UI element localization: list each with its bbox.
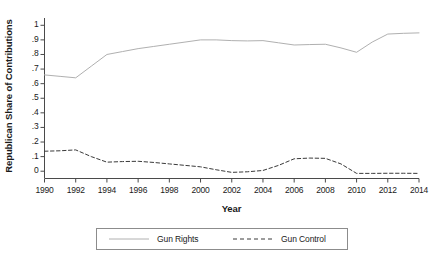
y-tick-label: .1	[17, 152, 39, 161]
x-tick-label: 2014	[402, 185, 431, 195]
x-tick-marks	[45, 179, 420, 183]
legend-entry-gun-control: Gun Control	[233, 229, 326, 249]
legend-label-gun-control: Gun Control	[281, 234, 326, 244]
y-tick-marks	[41, 25, 45, 171]
series-line-gun-rights	[45, 33, 420, 78]
y-tick-label: .7	[17, 64, 39, 73]
y-tick-label: .8	[17, 49, 39, 58]
x-tick-label: 2012	[371, 185, 405, 195]
x-tick-label: 2002	[215, 185, 249, 195]
x-tick-label: 1998	[152, 185, 186, 195]
x-tick-label: 2006	[277, 185, 311, 195]
x-axis-title: Year	[44, 203, 419, 214]
data-series-group	[45, 33, 420, 174]
legend-line-solid-icon	[109, 234, 149, 244]
x-tick-label: 1994	[90, 185, 124, 195]
legend-label-gun-rights: Gun Rights	[157, 234, 199, 244]
plot-area	[0, 0, 431, 260]
y-tick-label: .3	[17, 122, 39, 131]
y-tick-label: .4	[17, 108, 39, 117]
y-tick-label: 1	[17, 20, 39, 29]
x-tick-label: 1992	[59, 185, 93, 195]
x-tick-label: 1996	[121, 185, 155, 195]
x-tick-label: 2010	[340, 185, 374, 195]
chart-figure: Republican Share of Contributions 0.1.2.…	[0, 0, 431, 260]
x-tick-label: 1990	[28, 185, 62, 195]
x-tick-label: 2000	[184, 185, 218, 195]
legend-line-dashed-icon	[233, 234, 273, 244]
y-tick-label: .5	[17, 93, 39, 102]
y-tick-label: 0	[17, 166, 39, 175]
legend-entry-gun-rights: Gun Rights	[109, 229, 199, 249]
x-tick-label: 2008	[308, 185, 342, 195]
y-tick-label: .6	[17, 79, 39, 88]
x-tick-label: 2004	[246, 185, 280, 195]
axes-group	[45, 18, 420, 179]
y-tick-label: .9	[17, 35, 39, 44]
y-tick-label: .2	[17, 137, 39, 146]
series-line-gun-control	[45, 150, 420, 173]
chart-legend: Gun Rights Gun Control	[96, 228, 348, 250]
